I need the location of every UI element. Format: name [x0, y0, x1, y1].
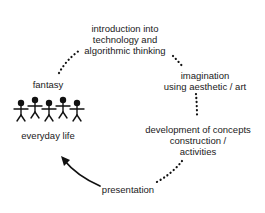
group-of-people-icon	[14, 97, 84, 121]
person-icon	[70, 100, 84, 121]
person-icon	[42, 100, 56, 121]
node-presentation-label: presentation	[102, 184, 154, 195]
node-everyday-life-label: everyday life	[21, 130, 74, 141]
node-introduction-line-1: introduction into	[84, 23, 165, 34]
node-imagination-line-1: imagination	[164, 70, 246, 81]
node-development-line-3: activities	[145, 146, 251, 157]
dotted-connector-imagination-development	[196, 94, 197, 117]
node-introduction-line-3: algorithmic thinking	[84, 45, 165, 56]
node-development: development of concepts construction / a…	[145, 124, 251, 157]
person-icon	[56, 97, 70, 118]
person-icon	[14, 100, 28, 121]
arrow-presentation-everyday-life	[64, 160, 100, 186]
node-everyday-life: everyday life	[21, 130, 74, 141]
node-imagination-line-2: using aesthetic / art	[164, 81, 246, 92]
node-fantasy-label: fantasy	[33, 79, 64, 90]
person-icon	[28, 97, 42, 118]
dotted-connector-introduction-imagination	[173, 56, 183, 67]
dotted-connector-development-presentation	[155, 161, 182, 183]
node-presentation: presentation	[102, 184, 154, 195]
node-development-line-1: development of concepts	[145, 124, 251, 135]
node-development-line-2: construction /	[145, 135, 251, 146]
node-introduction-line-2: technology and	[84, 34, 165, 45]
node-fantasy: fantasy	[33, 79, 64, 90]
node-introduction: introduction into technology and algorit…	[84, 23, 165, 56]
node-imagination: imagination using aesthetic / art	[164, 70, 246, 92]
dotted-connector-fantasy-introduction	[59, 50, 80, 73]
